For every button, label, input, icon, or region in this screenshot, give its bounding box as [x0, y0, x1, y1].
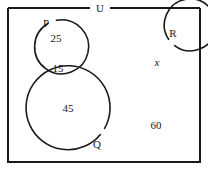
venn-diagram-canvas	[0, 0, 208, 170]
region-count-outside: 60	[151, 120, 162, 131]
region-count-p-only: 25	[51, 33, 62, 44]
region-count-p-and-q: 15	[53, 63, 64, 74]
universe-label: U	[93, 3, 107, 14]
set-label-q: Q	[93, 139, 101, 150]
venn-diagram-page: U P Q R 25 15 45 x 60	[0, 0, 208, 170]
region-count-q-only: 45	[63, 103, 74, 114]
region-count-r-only: x	[155, 57, 160, 68]
set-label-p: P	[43, 18, 49, 29]
set-label-r: R	[169, 28, 176, 39]
